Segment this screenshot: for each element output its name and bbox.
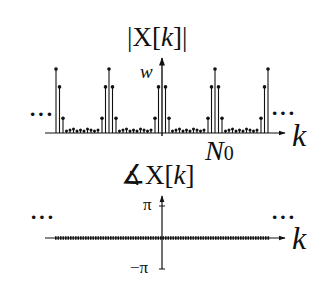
stem-marker [69,129,72,132]
stem-marker [206,116,210,120]
stem-marker [90,129,93,132]
stem-marker [79,129,82,132]
stem-marker [61,116,65,120]
stem-marker [203,129,206,132]
stem-marker [167,116,171,120]
n0-subscript: 0 [224,142,234,164]
stem-marker [76,130,79,133]
stem-marker [72,128,75,131]
phase-y-bottom-label: −π [130,259,148,276]
stem-marker [196,129,199,132]
stem-marker [107,67,111,71]
stem-marker [263,85,267,89]
stem-marker [259,116,263,120]
n0-main: N [205,135,224,166]
angle-icon: ∡ [121,160,145,190]
stem-marker [93,130,96,133]
phase-title-var: k [174,160,186,190]
stem-marker [122,129,125,132]
stem-marker [238,129,241,132]
phase-title: ∡X[k] [121,162,194,189]
stem-marker [114,116,118,120]
n0-marker-label: N0 [205,137,234,165]
stem-marker [111,85,115,89]
magnitude-title-var: k [161,22,173,52]
stem-marker [235,130,238,133]
phase-title-suffix: ] [185,160,194,190]
stem-marker [256,129,259,132]
stem-marker [217,85,221,89]
stem-marker [228,129,231,132]
stem-marker [104,85,108,89]
stem-marker [213,67,217,71]
stem-marker [83,130,86,133]
stem-marker [249,129,252,132]
stem-marker [65,130,68,133]
phase-title-prefix: X[ [145,160,174,190]
stem-marker [231,128,234,131]
stem-marker [199,130,202,133]
stem-marker [189,130,192,133]
stem-marker [192,128,195,131]
stem-marker [157,85,161,89]
stem-marker [182,130,185,133]
stem-marker [175,129,178,132]
stem-marker [97,129,100,132]
magnitude-title-suffix: ]| [173,22,187,52]
phase-x-label: k [292,222,306,254]
magnitude-y-label: w [140,62,153,81]
magnitude-x-label: k [292,119,306,151]
stem-marker [150,129,153,132]
stem-marker [252,130,255,133]
dft-spectrum-figure: |X[k]| w ··· ··· k N0 ∡X[k] π −π ··· ···… [0,0,326,301]
phase-left-ellipsis: ··· [30,206,55,228]
stem-marker [178,128,181,131]
stem-marker [118,130,121,133]
stem-marker [100,116,104,120]
stem-marker [210,85,214,89]
magnitude-left-ellipsis: ··· [29,103,54,125]
stem-marker [220,116,224,120]
stem-marker [86,128,89,131]
stem-marker [129,130,132,133]
stem-marker [146,130,149,133]
stem-marker [185,129,188,132]
stem-marker [153,116,157,120]
stem-marker [125,128,128,131]
phase-axes [45,196,285,269]
stem-marker [164,85,168,89]
stem-marker [245,128,248,131]
stem-marker [54,67,58,71]
stem-marker [171,130,174,133]
stem-marker [224,130,227,133]
stem-marker [132,129,135,132]
stem-marker [139,128,142,131]
stem-marker [143,129,146,132]
stem-marker [242,130,245,133]
phase-y-top-label: π [143,196,152,213]
stem-marker [58,85,62,89]
stem-marker [266,67,270,71]
magnitude-title: |X[k]| [127,24,187,51]
stem-marker [136,130,139,133]
magnitude-title-prefix: |X[ [127,22,161,52]
